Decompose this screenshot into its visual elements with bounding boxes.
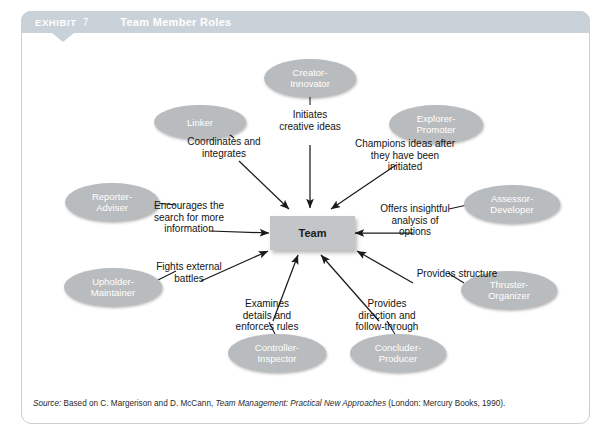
caption-text: Initiates creative ideas (279, 109, 341, 132)
role-controller-inspector[interactable]: Controller- Inspector (228, 334, 326, 372)
caption-text: Provides structure (417, 268, 498, 279)
role-creator-innovator[interactable]: Creator- Innovator (264, 59, 356, 97)
caption-initiates-creative-ideas: Initiates creative ideas (251, 109, 369, 132)
team-label: Team (299, 227, 327, 239)
exhibit-page: EXHIBIT 7 Team Member Roles (0, 0, 611, 446)
caption-offers-insightful-analysis: Offers insightful analysis of options (359, 203, 471, 238)
source-text-1: Based on C. Margerison and D. McCann, (61, 399, 215, 408)
team-roles-diagram: Creator- Innovator Linker Explorer- Prom… (21, 33, 590, 391)
caption-provides-direction: Provides direction and follow-through (335, 298, 439, 333)
source-text-2: (London: Mercury Books, 1990). (386, 399, 505, 408)
caption-examines-details: Examines details and enforces rules (217, 298, 317, 333)
role-label: Concluder- Producer (375, 342, 421, 364)
caption-text: Champions ideas after they have been ini… (355, 138, 455, 172)
role-label: Upholder- Maintainer (91, 276, 135, 298)
caption-text: Provides direction and follow-through (356, 298, 419, 332)
exhibit-header-bar: EXHIBIT 7 Team Member Roles (21, 11, 590, 33)
role-label: Explorer- Promoter (416, 113, 455, 135)
role-linker[interactable]: Linker (154, 105, 246, 139)
caption-text: Encourages the search for more informati… (154, 200, 224, 234)
role-concluder-producer[interactable]: Concluder- Producer (350, 334, 446, 372)
role-assessor-developer[interactable]: Assessor- Developer (464, 185, 560, 223)
exhibit-header-inner: EXHIBIT 7 Team Member Roles (35, 11, 232, 33)
caption-champions-ideas: Champions ideas after they have been ini… (337, 138, 473, 173)
exhibit-label: EXHIBIT (35, 17, 77, 28)
source-note: Source: Based on C. Margerison and D. Mc… (33, 398, 581, 409)
source-title-italic: Team Management: Practical New Approache… (216, 399, 387, 408)
caption-provides-structure: Provides structure (397, 268, 517, 280)
source-prefix: Source: (33, 399, 61, 408)
role-label: Assessor- Developer (490, 193, 533, 215)
caption-encourages-search: Encourages the search for more informati… (133, 200, 245, 235)
caption-text: Examines details and enforces rules (236, 298, 299, 332)
caption-coordinates-and-integrates: Coordinates and integrates (163, 136, 285, 159)
caption-text: Coordinates and integrates (187, 136, 260, 159)
role-label: Linker (187, 117, 213, 128)
caption-fights-external-battles: Fights external battles (133, 261, 245, 284)
exhibit-title: Team Member Roles (120, 16, 231, 28)
role-label: Creator- Innovator (290, 67, 330, 89)
caption-text: Offers insightful analysis of options (380, 203, 449, 237)
team-center-box[interactable]: Team (270, 216, 355, 250)
role-label: Thruster- Organizer (488, 279, 530, 301)
role-label: Controller- Inspector (255, 342, 299, 364)
caption-text: Fights external battles (156, 261, 222, 284)
exhibit-number: 7 (83, 17, 89, 28)
role-label: Reporter- Adviser (92, 191, 132, 213)
